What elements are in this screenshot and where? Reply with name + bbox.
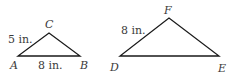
- vertex-label-b: B: [79, 59, 88, 72]
- vertex-label-d: D: [109, 61, 119, 74]
- side-label-ac: 5 in.: [8, 33, 33, 46]
- side-label-ab: 8 in.: [38, 59, 63, 72]
- side-label-df: 8 in.: [121, 24, 146, 37]
- vertex-label-f: F: [163, 4, 172, 17]
- vertex-label-e: E: [217, 62, 226, 75]
- triangles-diagram: C A B 5 in. 8 in. F D E 8 in.: [0, 0, 238, 77]
- vertex-label-a: A: [9, 59, 18, 72]
- vertex-label-c: C: [45, 18, 54, 31]
